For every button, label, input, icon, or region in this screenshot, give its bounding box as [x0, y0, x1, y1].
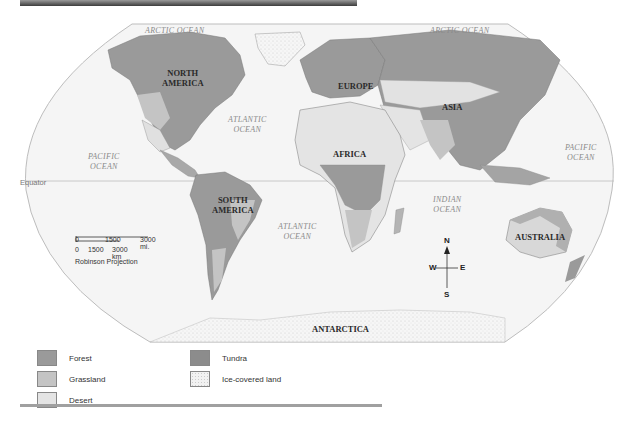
continent-label-europe: EUROPE [338, 81, 373, 91]
forest-swatch [37, 350, 57, 366]
equator-label: Equator [20, 178, 46, 187]
continent-label-australia: AUSTRALIA [515, 232, 565, 242]
compass-s: S [444, 290, 449, 299]
ice-swatch [190, 371, 210, 387]
map-graphic [0, 0, 643, 345]
continent-label-north-america: NORTH AMERICA [162, 68, 204, 88]
continent-label-antarctica: ANTARCTICA [312, 324, 369, 334]
ocean-label-indian: INDIAN OCEAN [433, 195, 461, 215]
ocean-label-pacific-left: PACIFIC OCEAN [88, 152, 120, 172]
scale-bar [75, 236, 155, 242]
compass-rose: N W E S [428, 236, 468, 296]
compass-e: E [460, 263, 465, 272]
continent-label-africa: AFRICA [333, 149, 366, 159]
ocean-label-arctic-left: ARCTIC OCEAN [145, 26, 204, 36]
continent-label-asia: ASIA [442, 102, 462, 112]
ocean-label-arctic-right: ARCTIC OCEAN [430, 26, 489, 36]
ocean-label-pacific-right: PACIFIC OCEAN [565, 143, 597, 163]
ocean-label-atlantic-south: ATLANTIC OCEAN [278, 222, 317, 242]
grassland-swatch [37, 371, 57, 387]
bottom-rule [20, 404, 382, 407]
scale-km: 0 1500 3000 km [75, 246, 138, 256]
compass-w: W [429, 263, 437, 272]
continent-label-south-america: SOUTH AMERICA [212, 195, 254, 215]
map-scale: 0 1500 3000 mi. 0 1500 3000 km Robinson … [75, 236, 138, 265]
legend-item-ice: Ice-covered land [190, 371, 350, 387]
legend-item-grassland: Grassland [37, 371, 197, 387]
legend-item-tundra: Tundra [190, 350, 350, 366]
compass-n: N [444, 236, 450, 245]
tundra-swatch [190, 350, 210, 366]
world-map: ARCTIC OCEAN ARCTIC OCEAN PACIFIC OCEAN … [0, 0, 643, 345]
ocean-label-atlantic-north: ATLANTIC OCEAN [228, 115, 267, 135]
legend-item-forest: Forest [37, 350, 197, 366]
